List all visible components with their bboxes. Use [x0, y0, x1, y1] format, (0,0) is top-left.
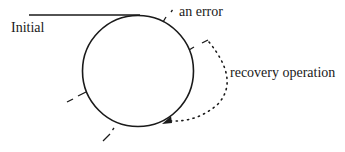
- initial-label: Initial: [11, 21, 44, 35]
- error-pointer-mark: [171, 10, 173, 12]
- error-label: an error: [179, 5, 223, 19]
- state-cycle-diagram: Initial an error recovery operation: [0, 0, 345, 152]
- recovery-start-dash: [202, 40, 208, 43]
- left-dashed-tick: [78, 92, 86, 96]
- cycle-circle: [83, 16, 194, 127]
- error-tick: [163, 17, 166, 22]
- lower-left-dashed-tick-outer: [103, 134, 110, 141]
- left-dashed-tick-outer: [67, 99, 73, 102]
- lower-left-dashed-tick: [113, 128, 115, 130]
- recovery-dotted-arc: [171, 42, 227, 121]
- recovery-label: recovery operation: [230, 66, 335, 80]
- recovery-start-tick: [189, 47, 194, 50]
